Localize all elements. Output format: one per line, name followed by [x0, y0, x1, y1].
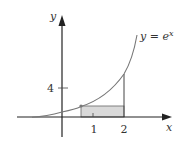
- function-label-base: y = e: [139, 30, 169, 43]
- y-axis-label: y: [49, 10, 57, 23]
- y-tick-label-4: 4: [47, 82, 54, 95]
- function-label-exponent: x: [169, 29, 174, 38]
- svg-text:y = ex: y = ex: [139, 29, 174, 43]
- y-axis-arrow-icon: [59, 15, 66, 26]
- function-label: y = ex: [139, 29, 174, 43]
- x-tick-label-1: 1: [91, 123, 98, 136]
- curve-point-marker: [79, 104, 82, 107]
- x-axis-arrow-icon: [162, 114, 172, 121]
- shaded-rectangle: [81, 106, 124, 117]
- exponential-area-diagram: y x 4 1 2 y = ex: [0, 0, 178, 144]
- exponential-curve: [32, 35, 137, 117]
- x-tick-label-2: 2: [121, 123, 128, 136]
- x-axis-label: x: [166, 121, 173, 134]
